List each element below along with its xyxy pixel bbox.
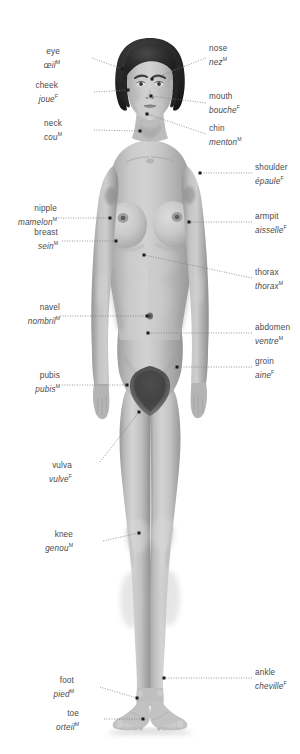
label-foot-french: piedM [0,686,74,700]
label-vulva-english: vulva [0,461,72,471]
label-cheek-english: cheek [0,81,58,91]
label-groin-english: groin [255,357,274,367]
label-groin-french: aineF [255,367,274,381]
label-groin-gender-marker: F [271,369,274,375]
label-knee-gender-marker: M [69,542,73,548]
label-abdomen-gender-marker: M [279,335,283,341]
label-nipple-english: nipple [0,204,57,214]
label-chin-english: chin [209,124,242,134]
label-shoulder-english: shoulder [255,163,288,173]
label-knee-english: knee [0,530,73,540]
label-thorax-gender-marker: M [279,280,283,286]
label-navel-gender-marker: M [56,315,60,321]
label-mouth-english: mouth [209,92,240,102]
label-pubis-gender-marker: M [56,383,60,389]
label-thorax-french: thoraxM [255,278,283,292]
label-navel-english: navel [0,303,60,313]
label-eye-gender-marker: M [56,59,60,65]
label-ankle-gender-marker: F [284,680,287,686]
label-abdomen-english: abdomen [255,323,290,333]
label-armpit-english: armpit [255,212,287,222]
label-nipple-gender-marker: M [53,216,57,222]
label-chin-french: mentonM [209,134,242,148]
label-vulva-gender-marker: F [69,473,72,479]
label-neck-french: couM [0,129,62,143]
label-nipple-french: mamelonM [0,214,57,228]
label-mouth-french: boucheF [209,102,240,116]
label-ankle-english: ankle [255,668,287,678]
label-foot-english: foot [0,676,74,686]
label-cheek-french: joueF [0,91,58,105]
label-eye-english: eye [0,47,60,57]
label-pubis-french: pubisM [0,381,60,395]
label-neck-english: neck [0,119,62,129]
label-nose-french: nezM [209,54,227,68]
label-armpit-gender-marker: F [284,224,287,230]
label-shoulder-gender-marker: F [281,175,284,181]
label-foot-gender-marker: M [70,688,74,694]
label-mouth-gender-marker: F [237,104,240,110]
label-breast-english: breast [0,228,58,238]
label-chin-gender-marker: M [237,136,241,142]
label-armpit-french: aisselleF [255,222,287,236]
anatomy-diagram: eyeœilMnosenezMcheekjoueFmouthboucheFnec… [0,0,300,754]
label-shoulder-french: épauleF [255,173,288,187]
label-thorax-english: thorax [255,268,283,278]
label-breast-french: seinM [0,238,58,252]
label-neck-gender-marker: M [58,131,62,137]
label-abdomen-french: ventreM [255,333,290,347]
label-nose-gender-marker: M [223,56,227,62]
label-pubis-english: pubis [0,371,60,381]
label-ankle-french: chevilleF [255,678,287,692]
label-navel-french: nombrilM [0,313,60,327]
label-knee-french: genouM [0,540,73,554]
label-nose-english: nose [209,44,227,54]
label-breast-gender-marker: M [54,240,58,246]
label-eye-french: œilM [0,57,60,71]
label-vulva-french: vulveF [0,471,72,485]
label-toe-gender-marker: M [75,721,79,727]
label-toe-french: orteilM [0,719,79,733]
label-cheek-gender-marker: F [55,93,58,99]
label-toe-english: toe [0,709,79,719]
